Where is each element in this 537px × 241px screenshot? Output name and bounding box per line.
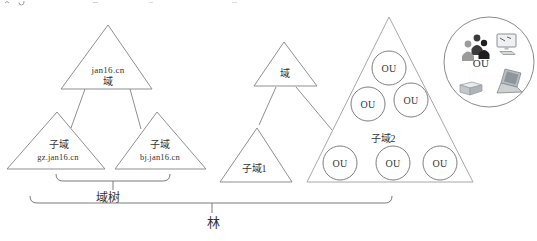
domain-tree-group: jan16.cn 域 子域 gz.jan16.cn 子域 bj.jan16.cn… xyxy=(7,25,206,205)
ou-label: OU xyxy=(385,158,401,169)
right-subdomain-type-label: 子域 xyxy=(150,138,170,150)
ou-label: OU xyxy=(403,95,419,106)
subdomain1-label: 子域1 xyxy=(242,162,267,174)
ou-circle: OU xyxy=(394,83,428,117)
ou-circle: OU xyxy=(372,51,406,85)
ou-detail-group: OU xyxy=(444,17,534,107)
ou-circle: OU xyxy=(351,87,385,121)
right-subdomain-name: bj.jan16.cn xyxy=(140,152,181,162)
cropped-text-remnant xyxy=(5,1,237,5)
single-tree-group: 域 子域1 xyxy=(220,42,332,182)
middle-root-to-subdomain2-connector xyxy=(296,87,332,130)
middle-domain-label: 域 xyxy=(280,67,290,79)
subdomain2-group: OU OU OU OU OU OU 子域2 xyxy=(307,17,473,182)
middle-domain-triangle xyxy=(254,42,317,86)
ou-label: OU xyxy=(360,99,376,110)
ou-label: OU xyxy=(432,158,448,169)
diagram-canvas: jan16.cn 域 子域 gz.jan16.cn 子域 bj.jan16.cn… xyxy=(0,0,537,241)
domain-tree-bracket xyxy=(56,174,170,190)
left-subdomain-type-label: 子域 xyxy=(49,138,69,150)
middle-root-to-subdomain1-connector xyxy=(259,87,276,125)
subdomain2-label: 子域2 xyxy=(371,132,396,144)
ou-label: OU xyxy=(381,63,397,74)
root-domain-type-label: 域 xyxy=(103,75,113,87)
forest-label: 林 xyxy=(207,215,220,230)
ou-label: OU xyxy=(332,158,348,169)
root-to-left-child-connector xyxy=(71,89,85,128)
root-to-right-child-connector xyxy=(130,89,141,129)
ou-circle: OU xyxy=(323,146,357,180)
ou-circle: OU xyxy=(423,146,457,180)
root-domain-name: jan16.cn xyxy=(90,65,124,75)
forest-bracket xyxy=(30,196,392,213)
ou-circle: OU xyxy=(376,146,410,180)
ou-detail-label: OU xyxy=(473,57,490,69)
left-subdomain-name: gz.jan16.cn xyxy=(37,152,79,162)
ad-domain-forest-diagram: jan16.cn 域 子域 gz.jan16.cn 子域 bj.jan16.cn… xyxy=(0,0,537,241)
